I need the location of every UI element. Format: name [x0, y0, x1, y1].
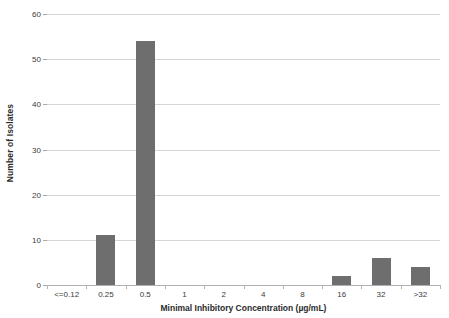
bar — [136, 41, 155, 285]
y-axis-title-text: Number of Isolates — [5, 103, 15, 181]
x-tick-mark — [283, 285, 284, 289]
x-tick-mark — [322, 285, 323, 289]
bar — [372, 258, 391, 285]
x-tick-mark — [244, 285, 245, 289]
x-axis-title: Minimal Inhibitory Concentration (µg/mL) — [47, 303, 440, 313]
x-tick-mark — [86, 285, 87, 289]
gridline-30 — [47, 150, 440, 151]
gridline-20 — [47, 195, 440, 196]
x-tick-mark — [126, 285, 127, 289]
x-tick-label-9: >32 — [390, 290, 449, 299]
y-tick-label-60: 60 — [0, 10, 41, 19]
y-tick-label-40: 40 — [0, 100, 41, 109]
plot-area — [47, 14, 440, 285]
gridline-40 — [47, 104, 440, 105]
y-tick-label-0: 0 — [0, 281, 41, 290]
x-tick-mark — [204, 285, 205, 289]
y-tick-label-20: 20 — [0, 190, 41, 199]
y-tick-label-50: 50 — [0, 55, 41, 64]
x-tick-mark — [47, 285, 48, 289]
x-axis-tick-labels: <=0.120.250.512481632>32 — [47, 290, 440, 302]
bar — [332, 276, 351, 285]
gridline-50 — [47, 59, 440, 60]
bar-chart: Number of Isolates 0102030405060 <=0.120… — [0, 0, 449, 318]
x-tick-mark — [165, 285, 166, 289]
bar — [411, 267, 430, 285]
y-tick-label-30: 30 — [0, 145, 41, 154]
gridline-60 — [47, 14, 440, 15]
x-tick-mark — [401, 285, 402, 289]
y-tick-label-10: 10 — [0, 235, 41, 244]
x-tick-mark — [440, 285, 441, 289]
bar — [96, 235, 115, 285]
x-axis-ticks — [47, 285, 440, 289]
x-tick-mark — [361, 285, 362, 289]
